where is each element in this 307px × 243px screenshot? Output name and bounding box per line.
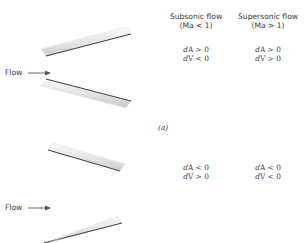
panel-b-supersonic-dA: dA < 0 (255, 163, 281, 172)
panel-a-supersonic-heading-line1: Supersonic flow (238, 12, 298, 21)
panel-a-label: (a) (158, 123, 168, 132)
panel-b-lower-wall (44, 216, 122, 243)
panel-b-supersonic-dV: dV < 0 (255, 172, 281, 181)
panel-a-supersonic-relations: dA > 0 dV > 0 (255, 45, 281, 64)
panel-b-subsonic-relations: dA < 0 dV > 0 (183, 163, 209, 182)
panel-b-subsonic-dV: dV > 0 (183, 172, 209, 181)
panel-a-lower-wall (41, 79, 131, 108)
panel-b-duct (28, 143, 125, 243)
nozzle-diffuser-figure: Subsonic flow (Ma < 1) Supersonic flow (… (0, 0, 307, 243)
panel-b-subsonic-dA: dA < 0 (183, 163, 209, 172)
panel-a-supersonic-dV: dV > 0 (255, 54, 281, 63)
panel-b-supersonic-relations: dA < 0 dV < 0 (255, 163, 281, 182)
panel-a-subsonic-dV: dV < 0 (183, 54, 209, 63)
panel-a-subsonic-dA: dA > 0 (183, 45, 209, 54)
panel-a-subsonic-heading: Subsonic flow (Ma < 1) (170, 12, 222, 31)
panel-a-supersonic-dA: dA > 0 (255, 45, 281, 54)
panel-a-supersonic-heading-line2: (Ma > 1) (238, 21, 298, 30)
panel-a-upper-wall (41, 27, 131, 56)
panel-b-upper-wall (48, 143, 125, 171)
panel-b-flow-label: Flow (5, 203, 22, 212)
duct-geometry-svg (0, 0, 307, 243)
panel-a-supersonic-heading: Supersonic flow (Ma > 1) (238, 12, 298, 31)
panel-a-duct (28, 27, 131, 108)
panel-a-subsonic-heading-line2: (Ma < 1) (170, 21, 222, 30)
panel-a-flow-label: Flow (5, 68, 22, 77)
panel-a-subsonic-heading-line1: Subsonic flow (170, 12, 222, 21)
panel-a-subsonic-relations: dA > 0 dV < 0 (183, 45, 209, 64)
